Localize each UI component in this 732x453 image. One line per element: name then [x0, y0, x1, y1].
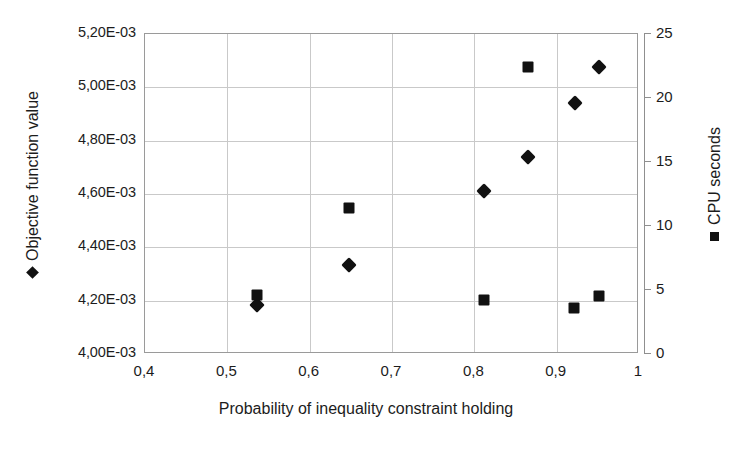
x-axis-tick-label: 0,9 — [526, 362, 586, 379]
y-axis-right-tick-label: 0 — [656, 344, 664, 361]
data-point-diamond — [476, 183, 492, 199]
y-axis-left-tick-label: 5,00E-03 — [38, 77, 136, 93]
scatter-chart: 4,00E-034,20E-034,40E-034,60E-034,80E-03… — [0, 0, 732, 453]
y-axis-left-title: Objective function value — [24, 59, 42, 309]
y-axis-right-tick-mark — [645, 225, 651, 226]
y-axis-left-tick-label: 4,80E-03 — [38, 131, 136, 147]
y-axis-left-title-text: Objective function value — [24, 91, 41, 261]
y-axis-right-tick-label: 20 — [656, 88, 673, 105]
gridline-vertical — [310, 34, 311, 352]
y-axis-left-tick-label: 4,40E-03 — [38, 237, 136, 253]
gridline-horizontal — [145, 247, 637, 248]
y-axis-right-tick-label: 15 — [656, 152, 673, 169]
y-axis-right-tick-label: 10 — [656, 216, 673, 233]
y-axis-right-tick-mark — [645, 353, 651, 354]
gridline-horizontal — [145, 194, 637, 195]
data-point-diamond — [341, 258, 357, 274]
y-axis-right-tick-mark — [645, 97, 651, 98]
y-axis-right-tick-mark — [645, 289, 651, 290]
gridline-horizontal — [145, 301, 637, 302]
y-axis-left-tick-label: 5,20E-03 — [38, 24, 136, 40]
gridline-horizontal — [145, 141, 637, 142]
diamond-marker-icon — [26, 266, 39, 279]
data-point-square — [479, 295, 490, 306]
data-point-square — [251, 290, 262, 301]
y-axis-right-line — [644, 33, 645, 354]
data-point-square — [568, 302, 579, 313]
y-axis-left-tick-label: 4,20E-03 — [38, 291, 136, 307]
y-axis-right-title: CPU seconds — [706, 69, 724, 299]
data-point-square — [522, 62, 533, 73]
y-axis-right-tick-mark — [645, 161, 651, 162]
x-axis-tick-label: 0,4 — [114, 362, 174, 379]
gridline-vertical — [474, 34, 475, 352]
y-axis-left-tick-label: 4,00E-03 — [38, 344, 136, 360]
x-axis-tick-label: 0,8 — [443, 362, 503, 379]
data-point-diamond — [567, 95, 583, 111]
data-point-diamond — [520, 149, 536, 165]
data-point-square — [594, 291, 605, 302]
y-axis-right-tick-mark — [645, 33, 651, 34]
data-point-square — [344, 203, 355, 214]
x-axis-tick-label: 0,6 — [279, 362, 339, 379]
square-marker-icon — [710, 232, 719, 241]
y-axis-right-tick-label: 5 — [656, 280, 664, 297]
data-point-diamond — [592, 60, 608, 76]
gridline-horizontal — [145, 87, 637, 88]
x-axis-tick-label: 1 — [608, 362, 668, 379]
gridline-vertical — [392, 34, 393, 352]
y-axis-right-tick-label: 25 — [656, 24, 673, 41]
x-axis-tick-label: 0,7 — [361, 362, 421, 379]
gridline-vertical — [227, 34, 228, 352]
plot-area — [144, 33, 638, 353]
y-axis-left-tick-label: 4,60E-03 — [38, 184, 136, 200]
x-axis-title: Probability of inequality constraint hol… — [0, 400, 732, 418]
x-axis-tick-label: 0,5 — [196, 362, 256, 379]
y-axis-right-title-text: CPU seconds — [706, 127, 723, 225]
gridline-vertical — [557, 34, 558, 352]
